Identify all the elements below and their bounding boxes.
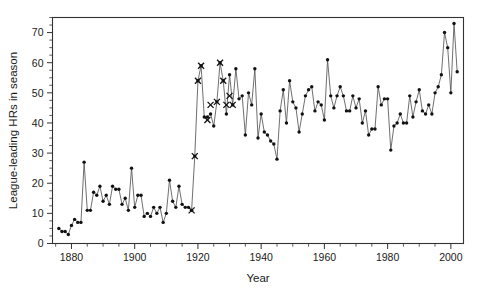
y-tick-label: 10 — [32, 207, 44, 219]
y-tick-label: 40 — [32, 117, 44, 129]
y-tick-label: 0 — [38, 237, 44, 249]
y-tick-label: 60 — [32, 57, 44, 69]
x-tick-label: 1920 — [186, 251, 210, 263]
x-tick-label: 1940 — [249, 251, 273, 263]
x-tick-label: 1960 — [313, 251, 337, 263]
x-tick-label: 1980 — [376, 251, 400, 263]
y-tick-label: 20 — [32, 177, 44, 189]
y-tick-label: 70 — [32, 26, 44, 38]
x-tick-label: 1900 — [123, 251, 147, 263]
chart-figure: 1880190019201940196019802000 01020304050… — [0, 0, 478, 294]
line-chart: 1880190019201940196019802000 01020304050… — [0, 0, 478, 294]
y-tick-label: 30 — [32, 147, 44, 159]
y-axis-label: League-leading HRs in season — [7, 52, 19, 209]
y-tick-label: 50 — [32, 87, 44, 99]
x-tick-label: 2000 — [439, 251, 463, 263]
x-axis-label: Year — [246, 272, 269, 284]
x-tick-label: 1880 — [60, 251, 84, 263]
